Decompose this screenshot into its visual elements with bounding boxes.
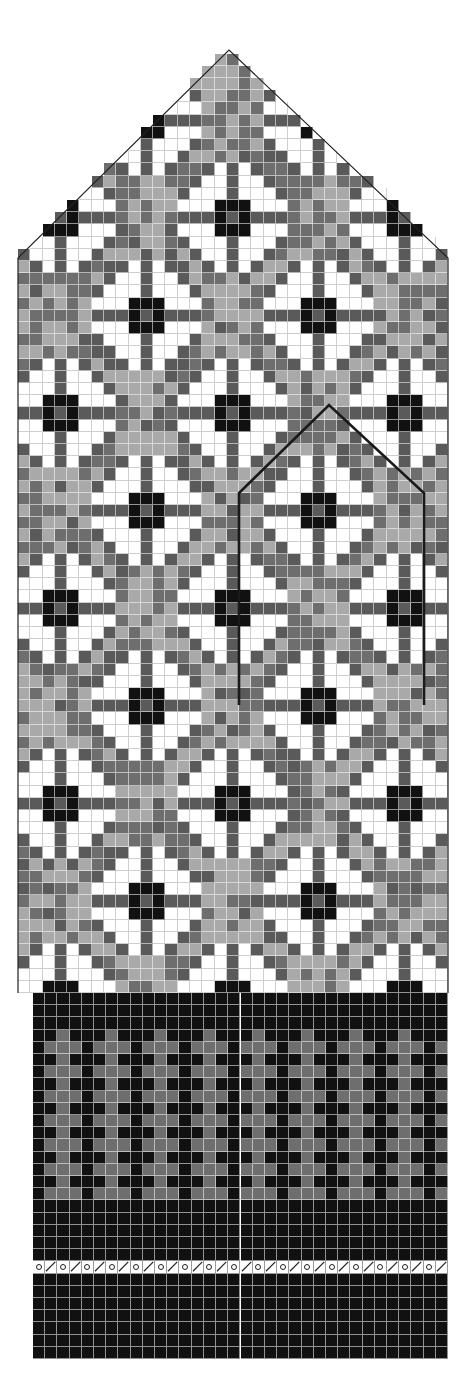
chart-cell xyxy=(239,822,251,834)
yarn-over-icon xyxy=(109,1264,115,1270)
chart-cell xyxy=(288,346,300,358)
chart-cell xyxy=(436,1200,448,1212)
chart-cell xyxy=(165,237,177,249)
chart-cell xyxy=(141,981,153,993)
chart-cell xyxy=(423,603,435,615)
chart-cell xyxy=(190,956,202,968)
chart-cell xyxy=(251,542,263,554)
chart-cell xyxy=(67,664,79,676)
chart-cell xyxy=(362,542,374,554)
chart-cell xyxy=(94,1213,106,1225)
chart-cell xyxy=(288,542,300,554)
chart-cell xyxy=(106,1176,118,1188)
chart-cell xyxy=(251,456,263,468)
chart-cell xyxy=(362,554,374,566)
chart-cell xyxy=(227,895,239,907)
chart-cell xyxy=(104,529,116,541)
chart-cell xyxy=(253,1237,265,1249)
chart-cell xyxy=(375,1237,387,1249)
chart-cell xyxy=(153,920,165,932)
chart-cell xyxy=(141,188,153,200)
chart-cell xyxy=(202,822,214,834)
chart-cell xyxy=(301,944,313,956)
chart-cell xyxy=(129,261,141,273)
chart-cell xyxy=(116,261,128,273)
chart-cell xyxy=(313,932,325,944)
chart-cell xyxy=(104,908,116,920)
chart-cell xyxy=(57,1091,69,1103)
chart-cell xyxy=(18,456,30,468)
chart-cell xyxy=(423,786,435,798)
chart-cell xyxy=(314,1188,326,1200)
chart-cell xyxy=(67,822,79,834)
chart-cell xyxy=(43,676,55,688)
chart-cell xyxy=(251,834,263,846)
chart-cell xyxy=(277,1213,289,1225)
chart-cell xyxy=(55,346,67,358)
chart-cell xyxy=(131,1322,143,1334)
chart-cell xyxy=(104,895,116,907)
chart-cell xyxy=(129,578,141,590)
chart-cell xyxy=(411,1054,423,1066)
chart-cell xyxy=(227,908,239,920)
chart-cell xyxy=(190,273,202,285)
chart-cell xyxy=(92,493,104,505)
chart-cell xyxy=(178,932,190,944)
chart-cell xyxy=(18,956,30,968)
chart-cell xyxy=(362,664,374,676)
chart-cell xyxy=(337,456,349,468)
chart-cell xyxy=(337,883,349,895)
chart-cell xyxy=(116,566,128,578)
chart-cell xyxy=(18,700,30,712)
chart-cell xyxy=(43,322,55,334)
chart-cell xyxy=(350,822,362,834)
chart-cell xyxy=(362,615,374,627)
chart-cell xyxy=(190,773,202,785)
chart-cell xyxy=(55,664,67,676)
chart-cell xyxy=(399,1274,411,1286)
chart-cell xyxy=(264,615,276,627)
chart-cell xyxy=(387,1115,399,1127)
chart-cell xyxy=(337,407,349,419)
chart-cell xyxy=(337,908,349,920)
chart-cell xyxy=(79,981,91,993)
chart-cell xyxy=(104,578,116,590)
chart-cell xyxy=(215,481,227,493)
chart-cell xyxy=(239,163,251,175)
chart-cell xyxy=(411,1249,423,1261)
chart-cell xyxy=(106,1005,118,1017)
chart-cell xyxy=(325,676,337,688)
chart-cell xyxy=(363,1017,375,1029)
chart-cell xyxy=(215,798,227,810)
chart-cell xyxy=(215,871,227,883)
k2tog-symbol xyxy=(94,1261,106,1273)
chart-cell xyxy=(165,493,177,505)
chart-cell xyxy=(374,712,386,724)
chart-cell xyxy=(70,1225,82,1237)
chart-cell xyxy=(374,895,386,907)
chart-cell xyxy=(167,1176,179,1188)
chart-cell xyxy=(362,737,374,749)
chart-cell xyxy=(264,566,276,578)
chart-cell xyxy=(436,1164,448,1176)
chart-cell xyxy=(276,749,288,761)
chart-cell xyxy=(436,1225,448,1237)
chart-cell xyxy=(55,249,67,261)
chart-cell xyxy=(362,371,374,383)
chart-cell xyxy=(227,700,239,712)
chart-cell xyxy=(251,761,263,773)
chart-cell xyxy=(313,944,325,956)
chart-cell xyxy=(313,505,325,517)
chart-cell xyxy=(325,834,337,846)
chart-cell xyxy=(215,407,227,419)
chart-cell xyxy=(153,273,165,285)
chart-cell xyxy=(104,615,116,627)
chart-cell xyxy=(313,407,325,419)
chart-cell xyxy=(118,1225,130,1237)
chart-cell xyxy=(289,1335,301,1347)
chart-cell xyxy=(215,554,227,566)
chart-cell xyxy=(424,1005,436,1017)
chart-cell xyxy=(57,1225,69,1237)
chart-cell xyxy=(325,578,337,590)
chart-cell xyxy=(18,444,30,456)
